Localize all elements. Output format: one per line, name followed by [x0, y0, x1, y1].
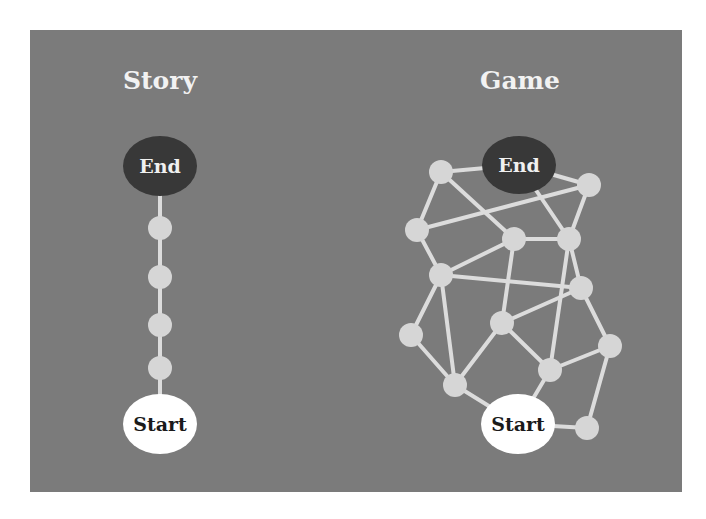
game-node: [538, 358, 562, 382]
game-node: [399, 323, 423, 347]
story-node: [148, 216, 172, 240]
game-node: [577, 173, 601, 197]
game-title: Game: [480, 66, 560, 95]
game-start-label: Start: [491, 413, 545, 435]
story-title: Story: [123, 66, 198, 95]
story-end-label: End: [139, 155, 181, 177]
story-node: [148, 356, 172, 380]
game-node: [443, 373, 467, 397]
game-node: [405, 218, 429, 242]
game-node: [569, 276, 593, 300]
story-vs-game-diagram: Story End Start Game End Start: [0, 0, 706, 519]
game-node: [502, 227, 526, 251]
game-node: [575, 416, 599, 440]
game-node: [557, 227, 581, 251]
game-end-label: End: [498, 154, 540, 176]
story-node: [148, 313, 172, 337]
game-node: [429, 160, 453, 184]
game-node: [429, 263, 453, 287]
game-node: [490, 311, 514, 335]
game-node: [598, 334, 622, 358]
story-node: [148, 265, 172, 289]
story-start-label: Start: [133, 413, 187, 435]
